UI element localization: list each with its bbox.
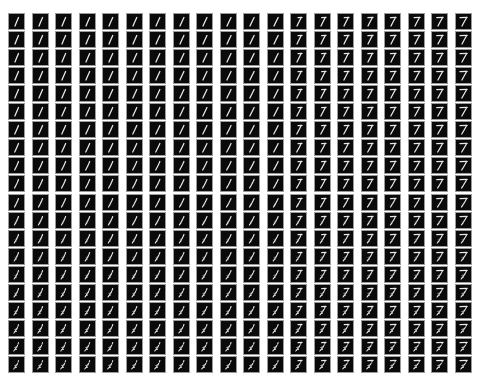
sample-tile xyxy=(385,195,400,210)
sample-tile xyxy=(56,357,71,372)
digit-glyph-icon xyxy=(80,104,95,119)
sample-tile xyxy=(33,140,48,155)
digit-glyph-icon xyxy=(56,195,71,210)
digit-glyph-icon xyxy=(103,267,118,282)
sample-tile xyxy=(432,122,447,137)
digit-glyph-icon xyxy=(362,140,377,155)
sample-tile xyxy=(56,104,71,119)
sample-tile xyxy=(33,32,48,47)
digit-glyph-icon xyxy=(221,357,236,372)
sample-tile xyxy=(150,231,165,246)
digit-glyph-icon xyxy=(56,249,71,264)
digit-glyph-icon xyxy=(362,68,377,83)
digit-glyph-icon xyxy=(33,14,48,29)
sample-tile xyxy=(385,50,400,65)
sample-tile xyxy=(291,195,306,210)
digit-glyph-icon xyxy=(338,249,353,264)
digit-glyph-icon xyxy=(150,267,165,282)
sample-tile xyxy=(127,267,142,282)
digit-glyph-icon xyxy=(150,321,165,336)
sample-tile xyxy=(385,321,400,336)
sample-tile xyxy=(409,213,424,228)
digit-glyph-icon xyxy=(9,86,24,101)
sample-tile xyxy=(103,176,118,191)
digit-glyph-icon xyxy=(409,267,424,282)
digit-glyph-icon xyxy=(362,122,377,137)
sample-tile xyxy=(362,122,377,137)
sample-tile xyxy=(174,339,189,354)
sample-tile xyxy=(174,195,189,210)
digit-glyph-icon xyxy=(221,50,236,65)
sample-tile xyxy=(315,339,330,354)
digit-glyph-icon xyxy=(150,357,165,372)
digit-glyph-icon xyxy=(268,213,283,228)
digit-glyph-icon xyxy=(338,213,353,228)
sample-tile xyxy=(432,104,447,119)
digit-glyph-icon xyxy=(197,86,212,101)
sample-tile xyxy=(456,231,471,246)
sample-tile xyxy=(362,357,377,372)
digit-glyph-icon xyxy=(432,14,447,29)
digit-glyph-icon xyxy=(315,249,330,264)
sample-tile xyxy=(9,357,24,372)
sample-tile xyxy=(9,303,24,318)
sample-tile xyxy=(9,249,24,264)
digit-glyph-icon xyxy=(103,213,118,228)
sample-tile xyxy=(127,86,142,101)
sample-tile xyxy=(315,285,330,300)
digit-glyph-icon xyxy=(221,213,236,228)
digit-glyph-icon xyxy=(385,68,400,83)
sample-tile xyxy=(456,285,471,300)
sample-tile xyxy=(362,213,377,228)
digit-glyph-icon xyxy=(432,86,447,101)
sample-tile xyxy=(385,68,400,83)
digit-glyph-icon xyxy=(174,303,189,318)
sample-tile xyxy=(150,357,165,372)
sample-tile xyxy=(456,86,471,101)
sample-tile xyxy=(197,86,212,101)
digit-glyph-icon xyxy=(56,50,71,65)
digit-glyph-icon xyxy=(315,321,330,336)
sample-tile xyxy=(409,249,424,264)
sample-tile xyxy=(150,321,165,336)
digit-glyph-icon xyxy=(221,86,236,101)
digit-glyph-icon xyxy=(127,32,142,47)
digit-glyph-icon xyxy=(80,140,95,155)
sample-tile xyxy=(127,357,142,372)
sample-tile xyxy=(197,339,212,354)
sample-tile xyxy=(409,231,424,246)
digit-glyph-icon xyxy=(432,140,447,155)
digit-glyph-icon xyxy=(33,321,48,336)
digit-glyph-icon xyxy=(268,176,283,191)
digit-glyph-icon xyxy=(174,321,189,336)
sample-tile xyxy=(127,140,142,155)
digit-glyph-icon xyxy=(56,285,71,300)
digit-glyph-icon xyxy=(244,195,259,210)
digit-glyph-icon xyxy=(9,32,24,47)
digit-glyph-icon xyxy=(103,195,118,210)
sample-tile xyxy=(315,14,330,29)
sample-tile xyxy=(33,122,48,137)
sample-tile xyxy=(315,158,330,173)
digit-glyph-icon xyxy=(221,68,236,83)
digit-glyph-icon xyxy=(150,158,165,173)
sample-tile xyxy=(150,122,165,137)
digit-glyph-icon xyxy=(197,104,212,119)
sample-tile xyxy=(221,176,236,191)
digit-glyph-icon xyxy=(268,303,283,318)
digit-glyph-icon xyxy=(268,231,283,246)
sample-tile xyxy=(338,68,353,83)
digit-glyph-icon xyxy=(33,303,48,318)
sample-tile xyxy=(338,321,353,336)
sample-tile xyxy=(103,231,118,246)
sample-tile xyxy=(315,213,330,228)
digit-glyph-icon xyxy=(409,285,424,300)
digit-glyph-icon xyxy=(338,267,353,282)
digit-glyph-icon xyxy=(150,86,165,101)
sample-tile xyxy=(33,104,48,119)
digit-glyph-icon xyxy=(432,68,447,83)
sample-tile xyxy=(315,176,330,191)
digit-glyph-icon xyxy=(103,176,118,191)
sample-tile xyxy=(244,195,259,210)
digit-glyph-icon xyxy=(174,140,189,155)
